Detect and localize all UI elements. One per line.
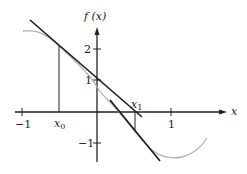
x1-label-sub: 1 — [137, 103, 142, 112]
x0-label: x0 — [54, 117, 65, 131]
newton-method-diagram: f (x) x −1 1 2 1 −1 x0 x1 — [0, 0, 247, 174]
x0-label-sub: 0 — [60, 122, 65, 131]
x-axis-label: x — [231, 105, 238, 118]
x-tick-label-neg1: −1 — [15, 118, 31, 131]
x-tick-label-1: 1 — [168, 118, 175, 131]
y-tick-label-2: 2 — [84, 43, 91, 56]
y-tick-label-neg1: −1 — [78, 137, 94, 150]
x1-label: x1 — [131, 98, 142, 112]
y-tick-label-1: 1 — [85, 74, 92, 87]
y-axis-arrow-icon — [95, 27, 100, 35]
axes — [15, 27, 227, 162]
x-axis-arrow-icon — [219, 110, 227, 115]
y-axis-label: f (x) — [83, 10, 106, 23]
tangent-line-at-x0 — [30, 20, 142, 117]
